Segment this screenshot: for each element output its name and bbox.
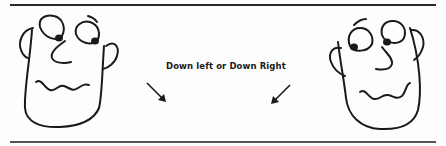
right-face-illustration (296, 0, 446, 146)
caption-text: Down left or Down Right (166, 61, 284, 71)
arrow-down-left-icon (268, 83, 292, 107)
illustration-panel: Down left or Down Right (0, 0, 446, 146)
arrow-down-right-icon (145, 81, 169, 105)
left-face-illustration (0, 0, 150, 146)
